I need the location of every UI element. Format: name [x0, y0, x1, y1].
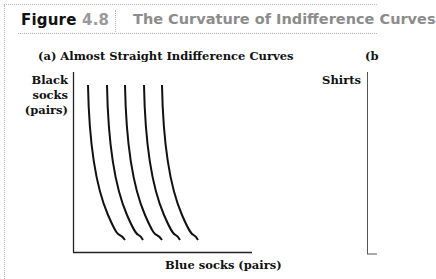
indifference-curves — [88, 85, 198, 240]
indifference-curve-1 — [88, 85, 125, 240]
indifference-curve-5 — [162, 85, 198, 240]
indifference-curve-3 — [125, 85, 162, 240]
panel-b-axes — [367, 72, 377, 254]
